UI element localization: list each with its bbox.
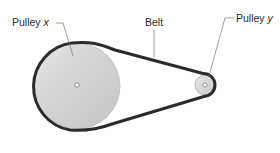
pulley-y-axle-icon [203,83,207,87]
pulley-x-variable: x [44,16,49,28]
pulley-y-leader-line [209,18,234,76]
pulley-y-label: Pulley y [236,13,273,24]
pulley-x-label-text: Pulley [12,16,41,28]
pulley-y-variable: y [268,12,273,24]
pulley-x-label: Pulley x [12,17,49,28]
belt-pulley-diagram: Pulley x Belt Pulley y [0,0,280,153]
pulley-x-axle-icon [75,83,79,87]
pulley-y-label-text: Pulley [236,12,265,24]
belt-label: Belt [145,17,163,28]
